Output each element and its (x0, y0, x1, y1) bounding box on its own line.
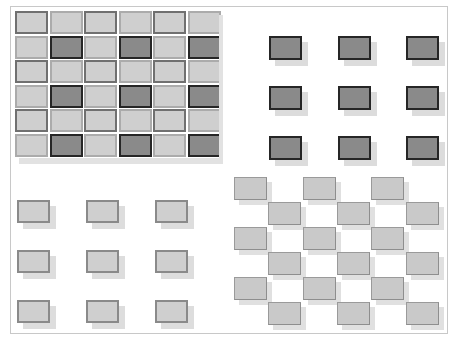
grid-rect (406, 302, 439, 325)
grid-rect (337, 202, 370, 225)
grid-rect (153, 11, 186, 34)
grid-rect (153, 85, 186, 108)
grid-rect (303, 277, 336, 300)
grid-rect (153, 60, 186, 83)
grid-rect (15, 109, 48, 132)
grid-rect (84, 11, 117, 34)
grid-rect (50, 36, 83, 59)
grid-rect (50, 11, 83, 34)
grid-rect (15, 11, 48, 34)
grid-rect (371, 227, 404, 250)
grid-rect (188, 36, 221, 59)
grid-rect (84, 109, 117, 132)
grid-rect (119, 60, 152, 83)
grid-rect (119, 11, 152, 34)
grid-rect (119, 134, 152, 157)
grid-rect (338, 86, 371, 110)
grid-rect (50, 60, 83, 83)
grid-rect (84, 36, 117, 59)
grid-rect (338, 136, 371, 160)
grid-rect (338, 36, 371, 60)
grid-rect (188, 85, 221, 108)
grid-rect (269, 86, 302, 110)
grid-rect (234, 227, 267, 250)
grid-rect (15, 85, 48, 108)
grid-rect (188, 60, 221, 83)
grid-rect (17, 200, 50, 223)
grid-rect (15, 134, 48, 157)
grid-rect (371, 277, 404, 300)
grid-rect (269, 36, 302, 60)
grid-rect (153, 109, 186, 132)
grid-rect (234, 277, 267, 300)
grid-rect (406, 86, 439, 110)
grid-rect (188, 134, 221, 157)
grid-rect (17, 300, 50, 323)
grid-rect (50, 109, 83, 132)
grid-rect (86, 250, 119, 273)
grid-rect (406, 136, 439, 160)
grid-rect (155, 200, 188, 223)
grid-rect (86, 300, 119, 323)
grid-rect (268, 252, 301, 275)
grid-rect (153, 36, 186, 59)
grid-rect (406, 202, 439, 225)
grid-rect (119, 109, 152, 132)
grid-rect (86, 200, 119, 223)
grid-rect (155, 250, 188, 273)
grid-shadow (219, 15, 223, 164)
grid-rect (119, 36, 152, 59)
grid-rect (155, 300, 188, 323)
grid-rect (269, 136, 302, 160)
grid-rect (15, 36, 48, 59)
grid-rect (406, 36, 439, 60)
grid-rect (50, 85, 83, 108)
grid-rect (337, 252, 370, 275)
grid-rect (406, 252, 439, 275)
grid-rect (268, 302, 301, 325)
grid-rect (153, 134, 186, 157)
grid-rect (119, 85, 152, 108)
grid-rect (371, 177, 404, 200)
grid-rect (50, 134, 83, 157)
grid-rect (303, 177, 336, 200)
grid-rect (84, 60, 117, 83)
grid-rect (303, 227, 336, 250)
grid-rect (234, 177, 267, 200)
grid-rect (84, 85, 117, 108)
grid-shadow (19, 158, 222, 164)
grid-rect (188, 109, 221, 132)
grid-rect (188, 11, 221, 34)
grid-rect (17, 250, 50, 273)
grid-rect (15, 60, 48, 83)
grid-rect (84, 134, 117, 157)
grid-rect (337, 302, 370, 325)
grid-rect (268, 202, 301, 225)
